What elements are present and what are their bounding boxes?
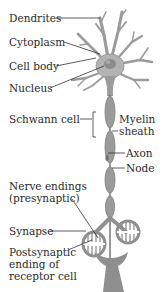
synapse-left (83, 232, 105, 256)
label-nerve-endings-1: Nerve endings (9, 180, 87, 192)
label-axon: Axon (126, 147, 153, 159)
synapse-right (117, 221, 139, 243)
label-schwann-cell: Schwann cell (9, 113, 80, 125)
label-dendrites: Dendrites (9, 12, 61, 24)
label-myelin-sheath-2: sheath (119, 125, 155, 137)
label-postsynaptic-1: Postsynaptic (9, 246, 76, 258)
label-nucleus: Nucleus (9, 82, 53, 94)
neuron-diagram: Dendrites Cytoplasm Cell body Nucleus Sc… (0, 0, 163, 292)
label-myelin-sheath-1: Myelin (119, 113, 155, 125)
label-nerve-endings-2: (presynaptic) (9, 192, 80, 204)
label-synapse: Synapse (9, 225, 53, 237)
myelinated-axon (105, 95, 115, 260)
postsynaptic-cell (94, 252, 128, 292)
label-cell-body: Cell body (9, 60, 59, 72)
label-postsynaptic-2: ending of (9, 258, 59, 270)
label-node: Node (126, 162, 154, 174)
label-cytoplasm: Cytoplasm (9, 36, 65, 48)
nucleus-shape (104, 59, 116, 69)
label-postsynaptic-3: receptor cell (9, 270, 77, 282)
